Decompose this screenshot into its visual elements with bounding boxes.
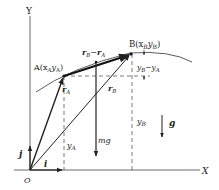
yb-label: yB [136, 117, 147, 127]
yb-minus-ya-label: yB−yA [136, 63, 160, 73]
diagram-svg: Y X O A(xAyA) B(xByB) rB−rA yB−yA rA rB … [0, 0, 219, 190]
work-of-gravity-diagram: Y X O A(xAyA) B(xByB) rB−rA yB−yA rA rB … [0, 0, 219, 190]
ra-label: rA [62, 84, 70, 95]
rb-minus-ra-label: rB−rA [82, 47, 105, 58]
i-label: i [44, 159, 47, 169]
point-b-label: B(xByB) [129, 39, 160, 50]
rb-label: rB [108, 83, 116, 94]
ya-label: yA [66, 141, 77, 151]
y-axis-label: Y [25, 6, 33, 16]
x-axis-label: X [201, 166, 209, 176]
j-label: j [17, 149, 23, 159]
vector-rb [30, 56, 129, 170]
point-b [129, 52, 132, 55]
origin-label: O [24, 176, 31, 185]
vector-ra [30, 78, 63, 170]
g-label: g [169, 118, 175, 128]
point-a-label: A(xAyA) [33, 63, 63, 73]
point-a [62, 74, 65, 77]
mg-label: mg [98, 136, 111, 145]
